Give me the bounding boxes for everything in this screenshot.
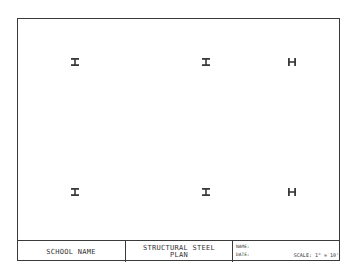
- i-beam-column-icon: [200, 187, 212, 197]
- project-name-cell: SCHOOL NAME: [17, 241, 126, 262]
- h-beam-column-icon: [286, 57, 298, 67]
- title-block: SCHOOL NAME STRUCTURAL STEEL PLAN NAME: …: [17, 240, 340, 261]
- name-label: NAME:: [236, 244, 250, 249]
- i-beam-column-icon: [69, 57, 81, 67]
- date-label: DATE:: [236, 252, 250, 257]
- project-name: SCHOOL NAME: [46, 248, 96, 256]
- i-beam-column-icon: [69, 187, 81, 197]
- drawing-title-cell: STRUCTURAL STEEL PLAN: [126, 241, 233, 262]
- info-cell: NAME: DATE: SCALE: 1" = 10': [233, 241, 340, 262]
- h-beam-column-icon: [286, 187, 298, 197]
- drawing-title-line2: PLAN: [170, 252, 188, 259]
- scale-label: SCALE: 1" = 10': [294, 252, 339, 258]
- drawing-border: [17, 18, 340, 261]
- i-beam-column-icon: [200, 57, 212, 67]
